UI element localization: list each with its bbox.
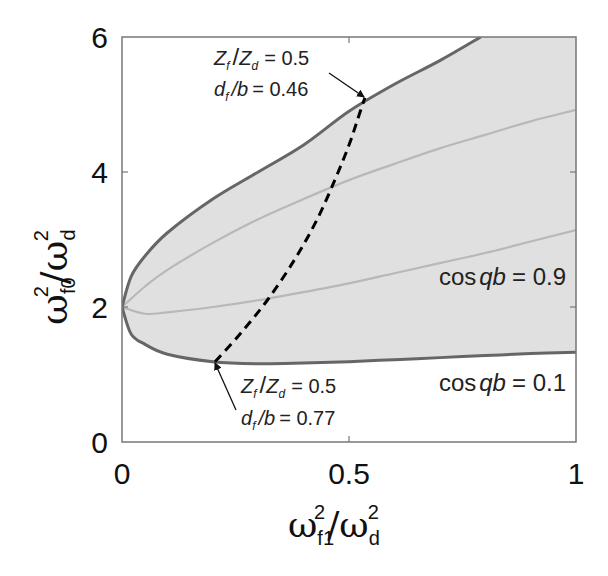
label-cosqb-0.1: cosqb= 0.1 [439,369,566,396]
y-tick-label-4: 4 [91,156,108,189]
label-cosqb-0.9: cosqb= 0.9 [439,263,566,290]
y-tick-label-0: 0 [91,426,108,459]
x-tick-label-0: 0 [114,457,131,490]
svg-text:ωf02/ωd2: ωf02/ωd2 [30,229,79,325]
x-axis-label: ωf12/ωd2 [288,501,380,549]
y-tick-label-2: 2 [91,291,108,324]
chart: 0 0.5 1 0 2 4 6 ωf12/ωd2 ωf02/ωd2 Zf/Zd=… [0,0,608,576]
y-tick-label-6: 6 [91,21,108,54]
svg-text:ωf12/ωd2: ωf12/ωd2 [288,501,380,549]
x-tick-label-0.5: 0.5 [328,457,370,490]
x-tick-label-1: 1 [568,457,585,490]
y-axis-label: ωf02/ωd2 [30,229,79,325]
